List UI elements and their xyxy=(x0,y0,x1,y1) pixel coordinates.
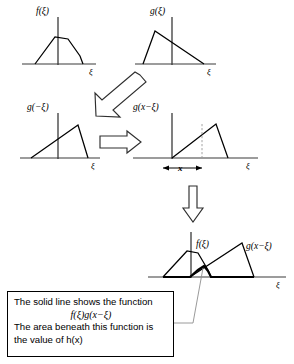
g-shift-curve xyxy=(172,124,228,158)
panel-f-top: f(ξ) ξ xyxy=(22,6,96,77)
shift-span-marker xyxy=(163,166,202,171)
callout-formula: f(ξ)g(x−ξ) xyxy=(14,308,168,321)
overlap-axis-label: ξ xyxy=(276,280,280,290)
g-shift-label: g(x−ξ) xyxy=(133,102,159,113)
g-shift-axis-label: ξ xyxy=(246,161,250,171)
f-top-curve xyxy=(35,37,83,64)
callout-line-1: The solid line shows the function xyxy=(14,296,168,308)
panel-g-reflected: g(−ξ) ξ xyxy=(20,102,100,171)
overlap-f-curve xyxy=(163,251,211,277)
f-top-label: f(ξ) xyxy=(36,6,49,17)
overlap-g-label: g(x−ξ) xyxy=(246,241,272,252)
arrow-horizontal-right xyxy=(100,131,141,153)
g-top-label: g(ξ) xyxy=(150,6,165,17)
g-ref-curve xyxy=(31,125,88,158)
f-top-axis-label: ξ xyxy=(89,67,93,77)
g-ref-axis-label: ξ xyxy=(91,161,95,171)
panel-overlap: f(ξ) g(x−ξ) ξ xyxy=(148,232,286,290)
callout-line-3: the value of h(x) xyxy=(14,334,168,346)
panel-g-shifted: x g(x−ξ) ξ xyxy=(133,102,258,173)
g-top-axis-label: ξ xyxy=(207,67,211,77)
figure-canvas: f(ξ) ξ g(ξ) ξ g(−ξ) ξ xyxy=(0,0,294,364)
arrow-vertical-down xyxy=(183,186,203,222)
overlap-product-curve xyxy=(163,266,254,277)
panel-g-top: g(ξ) ξ xyxy=(135,6,216,77)
g-top-curve xyxy=(143,31,204,64)
g-shift-shift-label: x xyxy=(177,163,183,173)
overlap-f-label: f(ξ) xyxy=(196,239,209,250)
callout-box: The solid line shows the function f(ξ)g(… xyxy=(7,291,174,357)
g-ref-label: g(−ξ) xyxy=(27,102,49,113)
callout-line-2: The area beneath this function is xyxy=(14,321,168,333)
